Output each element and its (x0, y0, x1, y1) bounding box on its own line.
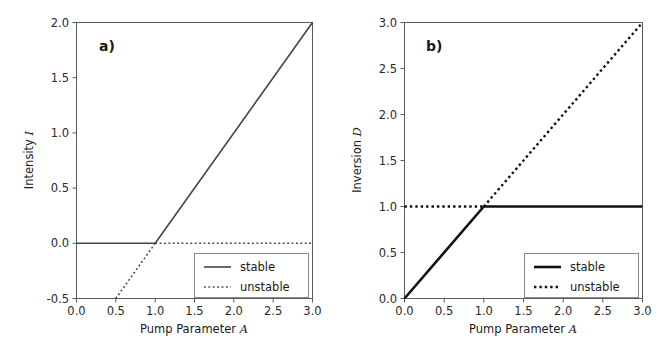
panel-b-y-axis-title: Inversion D (350, 127, 364, 193)
panel-a-y-axis-title: Intensity I (22, 130, 36, 189)
panel-a-ytick-label-1: 0.0 (51, 236, 69, 250)
panel-b-legend-label-unstable: unstable (570, 280, 620, 294)
panel-a-ytick-label-0: -0.5 (47, 292, 69, 306)
panel-a-legend-label-unstable: unstable (240, 280, 290, 294)
panel-b-ytick-label-2: 1.0 (379, 200, 397, 214)
panel-b: 0.0 0.5 1.0 1.5 2.0 2.5 3.0 0.0 0.5 1.0 … (329, 0, 658, 347)
panel-a-stable-branch-rising (155, 23, 312, 244)
panel-b-xtick-label-4: 2.0 (554, 304, 572, 318)
bifurcation-figure: -0.5 0.0 0.5 1.0 1.5 2.0 0.0 0.5 1.0 1.5… (0, 0, 658, 347)
panel-a-xtick-label-1: 0.5 (107, 304, 125, 318)
panel-a-ytick-label-3: 1.0 (51, 126, 69, 140)
panel-a-unstable-branch-lower (116, 243, 155, 298)
panel-b-ytick-label-6: 3.0 (379, 16, 397, 30)
panel-a-x-ticks (77, 299, 313, 303)
panel-b-ytick-label-4: 2.0 (379, 108, 397, 122)
panel-a-y-ticks (73, 23, 77, 299)
panel-a-svg: -0.5 0.0 0.5 1.0 1.5 2.0 0.0 0.5 1.0 1.5… (0, 0, 329, 347)
panel-a-xtick-label-6: 3.0 (303, 304, 321, 318)
panel-a-ytick-label-2: 0.5 (51, 181, 69, 195)
panel-b-ytick-label-3: 1.5 (379, 154, 397, 168)
panel-b-y-ticks (401, 23, 405, 299)
panel-b-ytick-label-1: 0.5 (379, 246, 397, 260)
panel-b-legend-label-stable: stable (570, 260, 605, 274)
panel-b-xtick-label-3: 1.5 (514, 304, 532, 318)
panel-b-label: b) (426, 38, 442, 54)
panel-b-stable-branch-rising (405, 207, 484, 299)
panel-a-xtick-label-2: 1.0 (146, 304, 164, 318)
panel-a-ytick-label-5: 2.0 (51, 16, 69, 30)
panel-b-xtick-label-6: 3.0 (633, 304, 651, 318)
panel-b-xtick-label-2: 1.0 (475, 304, 493, 318)
panel-b-legend: stable unstable (525, 254, 639, 298)
panel-b-ytick-label-5: 2.5 (379, 62, 397, 76)
panel-b-xtick-label-5: 2.5 (594, 304, 612, 318)
panel-b-x-axis-title: Pump Parameter A (469, 322, 577, 336)
panel-a-xtick-label-0: 0.0 (67, 304, 85, 318)
panel-b-svg: 0.0 0.5 1.0 1.5 2.0 2.5 3.0 0.0 0.5 1.0 … (329, 0, 658, 347)
panel-a-label: a) (99, 38, 115, 54)
panel-b-unstable-branch-rising (484, 23, 643, 207)
panel-a-legend: stable unstable (195, 254, 309, 298)
panel-a-xtick-label-5: 2.5 (264, 304, 282, 318)
panel-a-x-axis-title: Pump Parameter A (140, 322, 248, 336)
panel-a: -0.5 0.0 0.5 1.0 1.5 2.0 0.0 0.5 1.0 1.5… (0, 0, 329, 347)
panel-b-ytick-label-0: 0.0 (379, 292, 397, 306)
panel-a-xtick-label-3: 1.5 (185, 304, 203, 318)
panel-b-xtick-label-1: 0.5 (435, 304, 453, 318)
panel-a-xtick-label-4: 2.0 (225, 304, 243, 318)
panel-b-xtick-label-0: 0.0 (395, 304, 413, 318)
panel-a-legend-label-stable: stable (240, 260, 275, 274)
panel-b-x-ticks (405, 299, 643, 303)
panel-a-ytick-label-4: 1.5 (51, 71, 69, 85)
